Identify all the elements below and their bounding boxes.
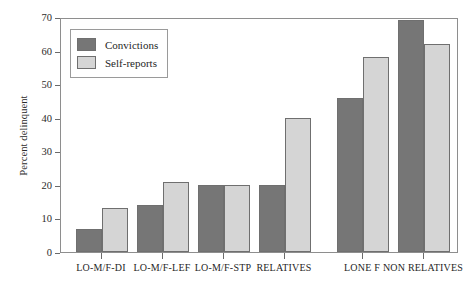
bar-chart: Percent delinquent 010203040506070 Convi… [0, 0, 474, 290]
y-axis-tick-label: 70 [42, 10, 53, 26]
y-axis-tick-label: 30 [42, 144, 53, 160]
y-axis-tick: 0 [0, 253, 60, 254]
y-axis-tick-label: 20 [42, 178, 53, 194]
bar [102, 208, 128, 252]
x-axis-tick-mark [101, 253, 102, 259]
y-axis-title: Percent delinquent [16, 18, 32, 253]
bar [285, 118, 311, 252]
y-axis-tick: 60 [0, 52, 60, 53]
legend-item: Self-reports [77, 54, 158, 71]
y-axis-tick-label: 40 [42, 111, 53, 127]
y-axis-tick: 50 [0, 85, 60, 86]
y-axis-tick-mark [55, 253, 60, 254]
x-axis-tick-mark [423, 253, 424, 259]
bar [137, 205, 163, 252]
x-axis-tick-mark [284, 253, 285, 259]
x-axis-tick-mark [223, 253, 224, 259]
bar [424, 44, 450, 252]
bar [363, 57, 389, 252]
y-axis-tick-label: 60 [42, 44, 53, 60]
x-axis-tick-mark [362, 253, 363, 259]
bar [259, 185, 285, 252]
y-axis-tick-label: 50 [42, 77, 53, 93]
y-axis-tick: 30 [0, 152, 60, 153]
y-axis-tick: 10 [0, 219, 60, 220]
bar [76, 229, 102, 253]
bar [337, 98, 363, 252]
y-axis-tick: 20 [0, 186, 60, 187]
y-axis-tick: 40 [0, 119, 60, 120]
y-axis-tick-label: 10 [42, 211, 53, 227]
y-axis-tick: 70 [0, 18, 60, 19]
legend-swatch [77, 56, 96, 69]
bar [198, 185, 224, 252]
bar [163, 182, 189, 253]
x-axis-tick-mark [162, 253, 163, 259]
plot-area: ConvictionsSelf-reports [60, 18, 458, 253]
bar [224, 185, 250, 252]
bar [398, 20, 424, 252]
legend-label: Self-reports [105, 56, 157, 70]
x-axis-label: NON RELATIVES [363, 261, 474, 275]
legend-swatch [77, 38, 96, 51]
chart-legend: ConvictionsSelf-reports [70, 29, 168, 78]
y-axis-tick-label: 0 [47, 245, 52, 261]
legend-label: Convictions [105, 38, 158, 52]
legend-item: Convictions [77, 36, 158, 53]
